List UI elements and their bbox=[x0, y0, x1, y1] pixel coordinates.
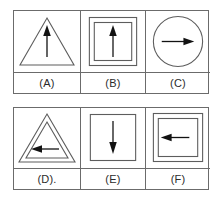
option-label: (A) bbox=[39, 78, 54, 89]
option-f-shape-area bbox=[146, 108, 210, 170]
option-e-shape-area bbox=[81, 108, 145, 170]
option-label: (D). bbox=[37, 174, 56, 185]
option-a-shape-area bbox=[14, 11, 80, 73]
option-cell-a[interactable]: (A) bbox=[14, 11, 80, 93]
option-e-label-area: (E) bbox=[81, 168, 145, 189]
option-label: (E) bbox=[105, 174, 120, 185]
answer-options-figure: (A) (B) bbox=[0, 0, 219, 203]
option-b-label-area: (B) bbox=[81, 72, 145, 93]
option-b-shape-area bbox=[81, 11, 145, 73]
option-cell-b[interactable]: (B) bbox=[80, 11, 145, 93]
triangle-up-arrow-icon bbox=[14, 11, 80, 73]
option-cell-f[interactable]: (F) bbox=[145, 108, 210, 189]
option-label: (B) bbox=[105, 78, 120, 89]
double-square-up-arrow-icon bbox=[81, 11, 145, 73]
option-a-label-area: (A) bbox=[14, 72, 80, 93]
square-down-arrow-icon bbox=[81, 108, 145, 170]
options-panel-top: (A) (B) bbox=[13, 10, 209, 94]
option-cell-d[interactable]: (D). bbox=[14, 108, 80, 189]
option-c-shape-area bbox=[146, 11, 210, 73]
circle-right-arrow-icon bbox=[146, 11, 210, 73]
option-d-shape-area bbox=[14, 108, 80, 170]
option-d-label-area: (D). bbox=[14, 168, 80, 189]
options-panel-bottom: (D). (E) bbox=[13, 107, 209, 190]
option-cell-c[interactable]: (C) bbox=[145, 11, 210, 93]
double-triangle-left-arrow-icon bbox=[14, 108, 80, 170]
option-f-label-area: (F) bbox=[146, 168, 210, 189]
option-cell-e[interactable]: (E) bbox=[80, 108, 145, 189]
double-square-left-arrow-icon bbox=[146, 108, 210, 170]
option-label: (F) bbox=[171, 174, 186, 185]
option-label: (C) bbox=[170, 78, 186, 89]
option-c-label-area: (C) bbox=[146, 72, 210, 93]
